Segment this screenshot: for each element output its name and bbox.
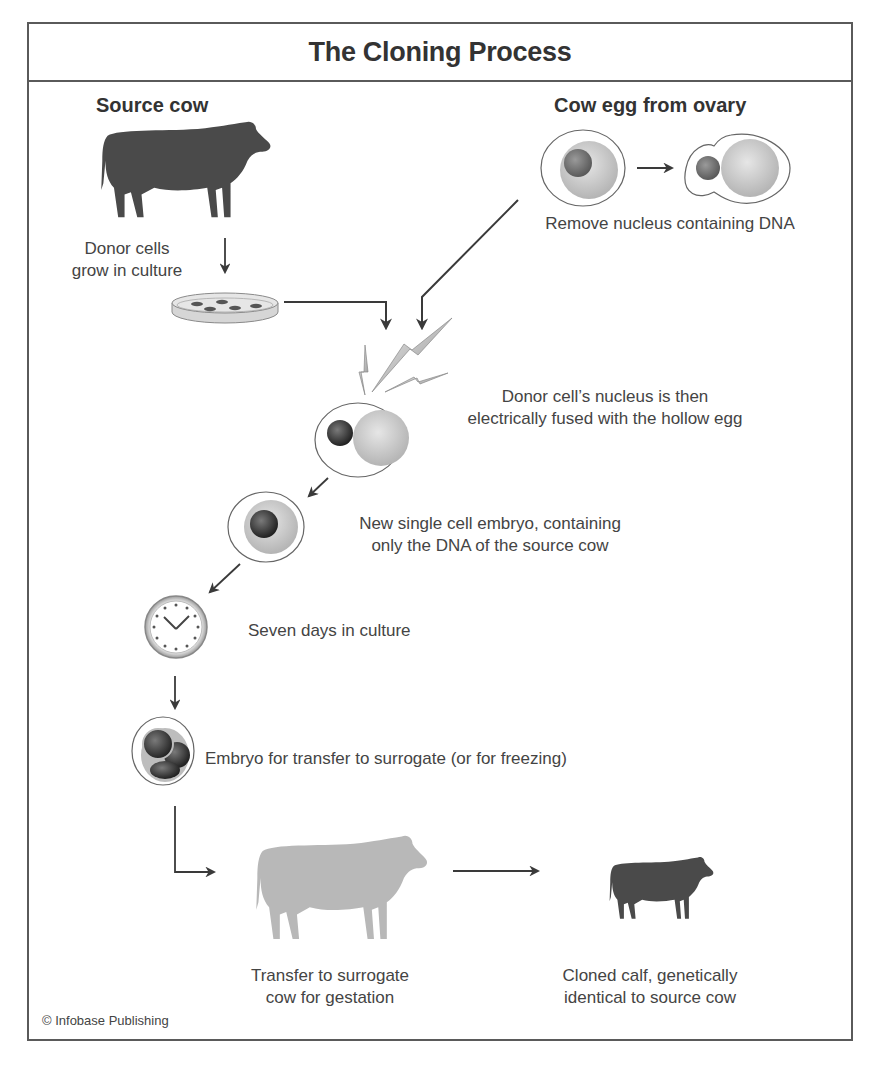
clock-icon (145, 596, 207, 658)
label-remove-nucleus: Remove nucleus containing DNA (520, 213, 820, 235)
source-cow-icon (101, 122, 270, 218)
label-fusion: Donor cell’s nucleus is then electricall… (430, 386, 780, 430)
arrow-diag-icon (309, 478, 328, 496)
egg-cell-icon (541, 130, 625, 206)
label-calf: Cloned calf, genetically identical to so… (540, 965, 760, 1009)
fused-cell-icon (315, 403, 409, 477)
enucleated-egg-icon (685, 134, 790, 203)
copyright-credit: © Infobase Publishing (42, 1013, 169, 1028)
arrow-petri-to-fusion-icon (284, 302, 386, 328)
label-donor-cells: Donor cells grow in culture (52, 238, 202, 282)
calf-icon (610, 857, 714, 919)
multicell-embryo-icon (132, 717, 194, 785)
arrow-to-surrogate-icon (175, 806, 214, 872)
arrow-egg-to-fusion-icon (422, 200, 518, 328)
label-surrogate: Transfer to surrogate cow for gestation (230, 965, 430, 1009)
heading-source-cow: Source cow (96, 94, 208, 117)
petri-dish-icon (172, 293, 278, 323)
label-embryo-transfer: Embryo for transfer to surrogate (or for… (205, 748, 567, 770)
embryo-cell-icon (228, 492, 304, 562)
heading-cow-egg: Cow egg from ovary (554, 94, 746, 117)
surrogate-cow-icon (256, 836, 427, 939)
arrow-diag-icon (210, 564, 240, 592)
lightning-bolt-icon (359, 318, 452, 395)
label-single-cell-embryo: New single cell embryo, containing only … (330, 513, 650, 557)
label-culture: Seven days in culture (248, 620, 411, 642)
